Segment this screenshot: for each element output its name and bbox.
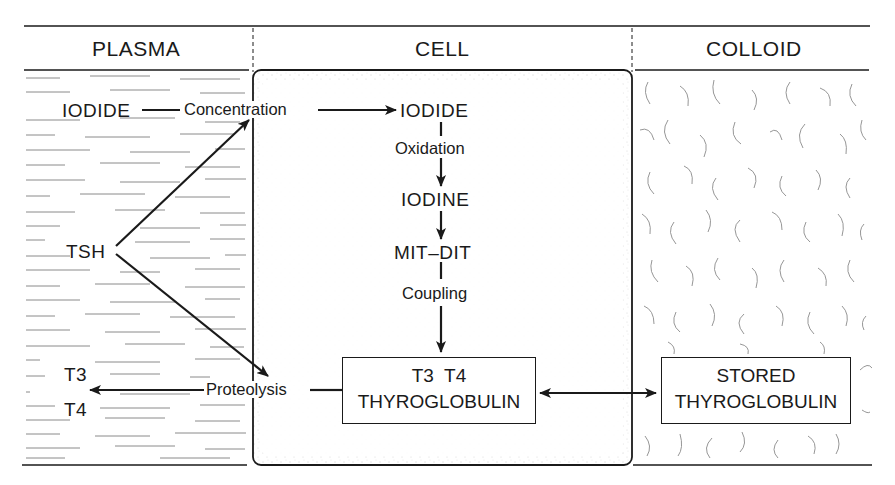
node-t3: T3 xyxy=(64,365,87,384)
box-line-thyroglobulin: THYROGLOBULIN xyxy=(662,389,850,415)
column-header-colloid: COLLOID xyxy=(706,38,802,59)
node-t4: T4 xyxy=(64,400,87,419)
node-cell-iodide: IODIDE xyxy=(400,101,468,120)
node-mit-dit: MIT–DIT xyxy=(394,243,471,262)
box-line-t3-t4: T3 T4 xyxy=(343,363,535,389)
arrow-tsh-proteolysis xyxy=(116,254,268,376)
process-coupling: Coupling xyxy=(401,285,468,302)
box-line-stored: STORED xyxy=(662,363,850,389)
column-header-cell: CELL xyxy=(415,38,470,59)
node-cell-thyroglobulin-box: T3 T4 THYROGLOBULIN xyxy=(342,357,536,424)
plasma-texture xyxy=(26,76,246,458)
node-tsh: TSH xyxy=(66,242,106,261)
node-stored-thyroglobulin-box: STORED THYROGLOBULIN xyxy=(661,357,851,424)
process-oxidation: Oxidation xyxy=(394,140,466,157)
column-header-plasma: PLASMA xyxy=(92,38,180,59)
box-line-thyroglobulin: THYROGLOBULIN xyxy=(343,389,535,415)
process-concentration: Concentration xyxy=(183,101,288,118)
process-proteolysis: Proteolysis xyxy=(205,381,288,398)
node-plasma-iodide: IODIDE xyxy=(62,101,130,120)
arrow-tsh-concentration xyxy=(116,120,249,246)
node-iodine: IODINE xyxy=(401,190,469,209)
